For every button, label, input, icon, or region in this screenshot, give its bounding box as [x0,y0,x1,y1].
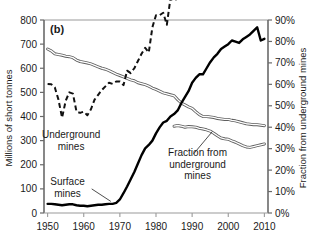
y2-tick-label: 0% [275,208,290,219]
y-axis-title-group: Millions of short tonnes [3,69,14,166]
y-tick-label: 200 [20,159,37,170]
fraction-underground-label-line: underground [169,159,226,170]
chart-container: Millions of short tonnes Fraction from u… [0,0,316,250]
line-inner [174,126,264,148]
surface-mines-label-line: mines [54,188,81,199]
y2-axis-title: Fraction from underground mines [297,48,308,189]
underground-mines-label: Undergroundmines [42,129,100,152]
y2-tick-label: 50% [275,100,295,111]
panel-label: (b) [50,23,64,35]
y2-tick-label: 70% [275,57,295,68]
y-tick-label: 0 [31,208,37,219]
fraction-underground-label-line: mines [184,170,211,181]
y-tick-label: 700 [20,39,37,50]
series-fraction-from-underground-mines [174,126,264,148]
line-outer [48,49,265,126]
y2-axis-title-group: Fraction from underground mines [297,48,308,189]
fraction-underground-label: Fraction fromundergroundmines [168,147,227,181]
x-tick-label: 1970 [109,221,132,232]
line-dashed [48,0,265,118]
y2-tick-label: 20% [275,165,295,176]
x-tick-label: 1960 [73,221,96,232]
x-tick-label: 2000 [217,221,240,232]
surface-mines-label: Surfacemines [50,176,85,199]
y-tick-label: 800 [20,15,37,26]
y-tick-label: 500 [20,87,37,98]
y-axis-ticks: 0100200300400500600700800 [20,15,44,219]
surface-mines-label-line: Surface [50,176,85,187]
y-axis-title: Millions of short tonnes [3,69,14,166]
series-total-production [48,0,265,118]
y2-axis-ticks: 0%10%20%30%40%50%60%70%80%90% [268,15,295,219]
y2-tick-label: 90% [275,15,295,26]
underground-mines-label-line: mines [58,141,85,152]
coal-production-chart: Millions of short tonnes Fraction from u… [0,0,316,250]
x-tick-label: 1950 [36,221,59,232]
y2-tick-label: 10% [275,186,295,197]
y-tick-label: 600 [20,63,37,74]
underground-mines-label-line: Underground [42,129,100,140]
y2-tick-label: 80% [275,36,295,47]
y2-tick-label: 30% [275,143,295,154]
x-tick-label: 1990 [181,221,204,232]
annotation-layer: UndergroundminesSurfaceminesFraction fro… [42,129,227,201]
y2-tick-label: 60% [275,79,295,90]
y-tick-label: 400 [20,111,37,122]
series-underground-mines [48,49,265,126]
y2-tick-label: 40% [275,122,295,133]
x-tick-label: 1980 [145,221,168,232]
y-tick-label: 100 [20,183,37,194]
x-axis-ticks: 1950196019701980199020002010 [36,213,275,232]
surface-mines-leader [92,189,111,202]
y-tick-label: 300 [20,135,37,146]
x-tick-label: 2010 [253,221,276,232]
